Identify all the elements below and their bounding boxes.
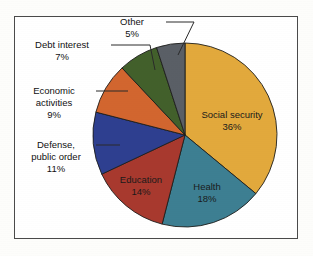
figure-container: Social security36%Health18%Education14%D…	[0, 0, 313, 256]
slice-value: 18%	[197, 193, 217, 204]
slice-value: 36%	[222, 121, 242, 132]
slice-label: Education	[120, 174, 162, 185]
slice-label: Social security	[201, 109, 262, 120]
pie-chart: Social security36%Health18%Education14%D…	[0, 0, 313, 256]
slice-label: Debt interest	[35, 39, 89, 50]
slice-value: 9%	[47, 109, 61, 120]
slice-value: 11%	[47, 163, 66, 174]
slice-label: Defense,	[37, 139, 75, 150]
slice-value: 14%	[131, 186, 151, 197]
slice-value: 5%	[125, 28, 139, 39]
slice-label: Health	[193, 181, 220, 192]
slice-value: 7%	[55, 51, 69, 62]
slice-label: Other	[120, 16, 144, 27]
slice-label: Economic	[33, 85, 75, 96]
pie-slices-group	[93, 43, 277, 227]
slice-label-line2: activities	[36, 97, 73, 108]
slice-label-line2: public order	[31, 151, 81, 162]
